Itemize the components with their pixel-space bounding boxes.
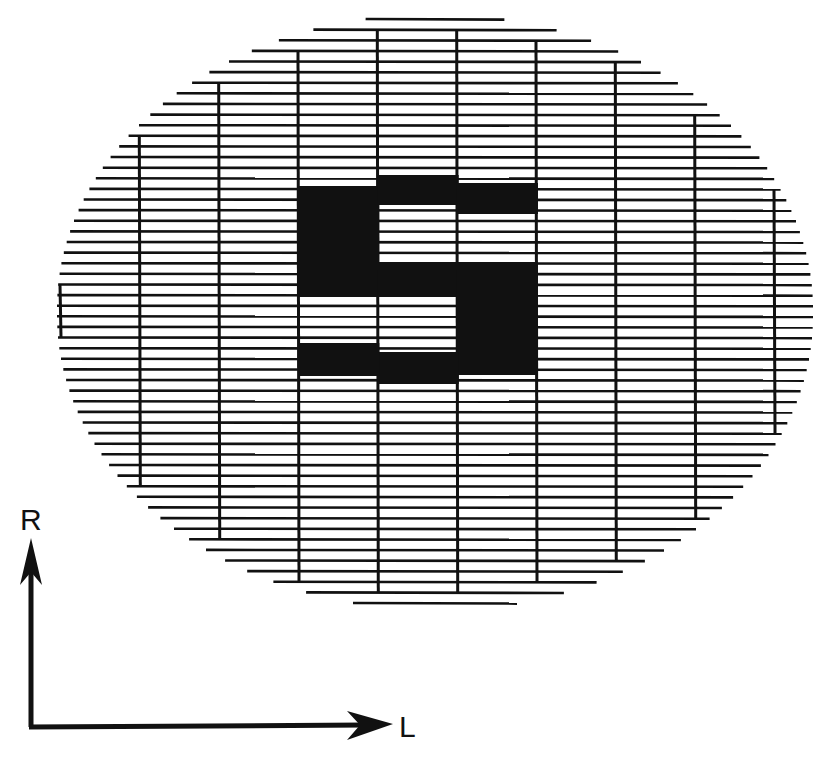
raster-line: [139, 125, 731, 126]
raster-line: [69, 391, 800, 392]
raster-line: [313, 30, 556, 31]
raster-line: [57, 306, 813, 307]
raster-line: [118, 476, 753, 477]
raster-line: [74, 221, 796, 222]
raster-line: [95, 444, 776, 445]
raster-line: [111, 157, 760, 158]
column-line: [377, 30, 378, 593]
raster-line: [137, 497, 733, 498]
column-line: [60, 285, 61, 338]
raster-line: [247, 571, 623, 572]
raster-line: [225, 561, 645, 562]
raster-line: [73, 401, 797, 402]
raster-line: [129, 136, 742, 137]
raster-line: [58, 338, 812, 339]
s-pattern-block: [377, 352, 458, 384]
raster-diagram: [0, 0, 826, 758]
column-line: [774, 189, 775, 433]
s-pattern-block: [457, 270, 538, 375]
s-pattern-block: [298, 343, 379, 376]
raster-line: [57, 327, 812, 328]
raster-line: [150, 115, 719, 116]
raster-line: [70, 231, 800, 232]
s-pattern: [298, 175, 538, 384]
raster-line: [88, 433, 781, 434]
raster-line: [353, 603, 517, 604]
raster-line: [59, 348, 810, 349]
s-pattern-block: [377, 270, 458, 297]
horizontal-raster-lines: [57, 19, 813, 604]
raster-line: [163, 104, 707, 105]
raster-line: [103, 168, 767, 169]
s-pattern-block: [377, 175, 458, 205]
column-line: [219, 83, 220, 540]
column-line: [298, 51, 299, 582]
raster-line: [306, 592, 564, 593]
raster-line: [189, 539, 681, 540]
r-axis-label: R: [20, 505, 42, 535]
raster-line: [206, 550, 664, 551]
raster-line: [57, 316, 813, 317]
column-line: [695, 115, 696, 518]
raster-line: [78, 412, 793, 413]
orientation-axes: [20, 538, 393, 740]
raster-line: [209, 72, 660, 73]
raster-line: [160, 518, 709, 519]
raster-line: [148, 507, 722, 508]
column-line: [615, 62, 616, 561]
raster-line: [229, 62, 641, 63]
raster-line: [119, 146, 751, 147]
l-axis-label: L: [399, 712, 416, 742]
raster-line: [273, 582, 596, 583]
raster-line: [192, 83, 678, 84]
l-axis-line: [29, 725, 365, 727]
s-pattern-block: [457, 183, 538, 214]
raster-line: [366, 19, 505, 20]
raster-line: [279, 40, 591, 41]
raster-line: [79, 210, 792, 211]
raster-line: [67, 242, 804, 243]
raster-line: [109, 465, 761, 466]
raster-line: [102, 454, 769, 455]
raster-line: [83, 423, 788, 424]
raster-line: [252, 51, 618, 52]
column-line: [139, 136, 140, 486]
